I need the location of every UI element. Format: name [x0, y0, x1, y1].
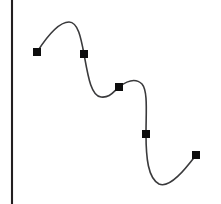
data-point-5[interactable] [192, 151, 200, 159]
data-point-3[interactable] [115, 83, 123, 91]
data-point-1[interactable] [33, 48, 41, 56]
chart-background [0, 0, 221, 204]
data-point-2[interactable] [80, 50, 88, 58]
chart-canvas [0, 0, 221, 204]
chart-container [0, 0, 221, 204]
data-point-4[interactable] [142, 130, 150, 138]
